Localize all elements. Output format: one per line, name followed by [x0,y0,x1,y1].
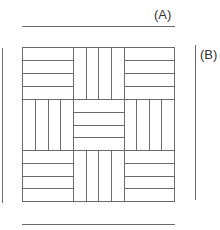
strip [125,60,174,73]
dimension-line-left [2,48,3,203]
label-a: (A) [154,8,171,21]
strip [98,48,111,99]
strip [23,151,73,163]
strip [98,151,111,201]
strip [125,86,174,99]
strip [35,100,48,150]
label-b: (B) [200,48,217,61]
strip [125,176,174,189]
strip [23,73,73,86]
strip [23,188,73,201]
strip [23,163,73,176]
strip [125,48,174,60]
strip [125,73,174,86]
strip [74,48,86,99]
strip [86,48,99,99]
strip [23,176,73,189]
block-r0-c2 [124,48,174,99]
strip [125,163,174,176]
block-r2-c1 [73,150,123,201]
strip [125,188,174,201]
strip [74,125,123,138]
strip [136,100,149,150]
block-r2-c0 [23,150,73,201]
strip [23,48,73,60]
strip [23,86,73,99]
strip [23,60,73,73]
strip [111,151,124,201]
block-r2-c2 [124,150,174,201]
strip [74,151,86,201]
block-r1-c0 [23,99,73,150]
block-r1-c2 [124,99,174,150]
strip [74,112,123,125]
strip [125,100,137,150]
block-r0-c0 [23,48,73,99]
strip [60,100,73,150]
strip [86,151,99,201]
dimension-line-bottom [22,224,175,225]
strip [74,100,123,112]
dimension-line-a-top [22,26,175,27]
strip [23,100,35,150]
dimension-line-b-right [195,45,196,200]
strip [161,100,174,150]
block-r1-c1 [73,99,123,150]
strip [111,48,124,99]
strip [125,151,174,163]
strip [149,100,162,150]
parquet-pattern-grid [22,47,175,202]
block-r0-c1 [73,48,123,99]
strip [74,137,123,150]
strip [48,100,61,150]
